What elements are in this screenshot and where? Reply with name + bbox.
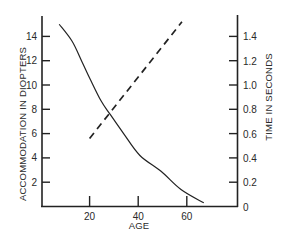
- accommodation-curve: [59, 24, 204, 203]
- left-y-axis-title: ACCOMMODATION IN DIOPTERS: [17, 47, 28, 201]
- left-tick-label: 8: [31, 104, 37, 115]
- right-y-axis-title: TIME IN SECONDS: [263, 53, 274, 140]
- chart: 2468101214 00.20.40.60.81.01.21.4 204060…: [0, 0, 283, 238]
- right-tick-label: 0.2: [243, 177, 257, 188]
- right-tick-label: 0.6: [243, 129, 257, 140]
- x-axis-title: AGE: [129, 220, 150, 231]
- right-tick-label: 0: [243, 202, 249, 213]
- axes: [41, 15, 238, 207]
- x-tick-label: 20: [84, 211, 96, 222]
- right-y-ticks: 00.20.40.60.81.01.21.4: [229, 31, 257, 212]
- right-tick-label: 1.4: [243, 31, 257, 42]
- right-tick-label: 0.8: [243, 104, 257, 115]
- x-ticks: 204060: [84, 196, 193, 222]
- left-tick-label: 2: [31, 177, 37, 188]
- left-y-ticks: 2468101214: [26, 31, 50, 188]
- right-tick-label: 0.4: [243, 153, 257, 164]
- right-tick-label: 1.2: [243, 56, 257, 67]
- left-tick-label: 6: [31, 128, 37, 139]
- right-tick-label: 1.0: [243, 80, 257, 91]
- left-tick-label: 14: [26, 31, 38, 42]
- left-tick-label: 4: [31, 152, 37, 163]
- time-dashed-line: [90, 22, 182, 139]
- x-tick-label: 60: [181, 211, 193, 222]
